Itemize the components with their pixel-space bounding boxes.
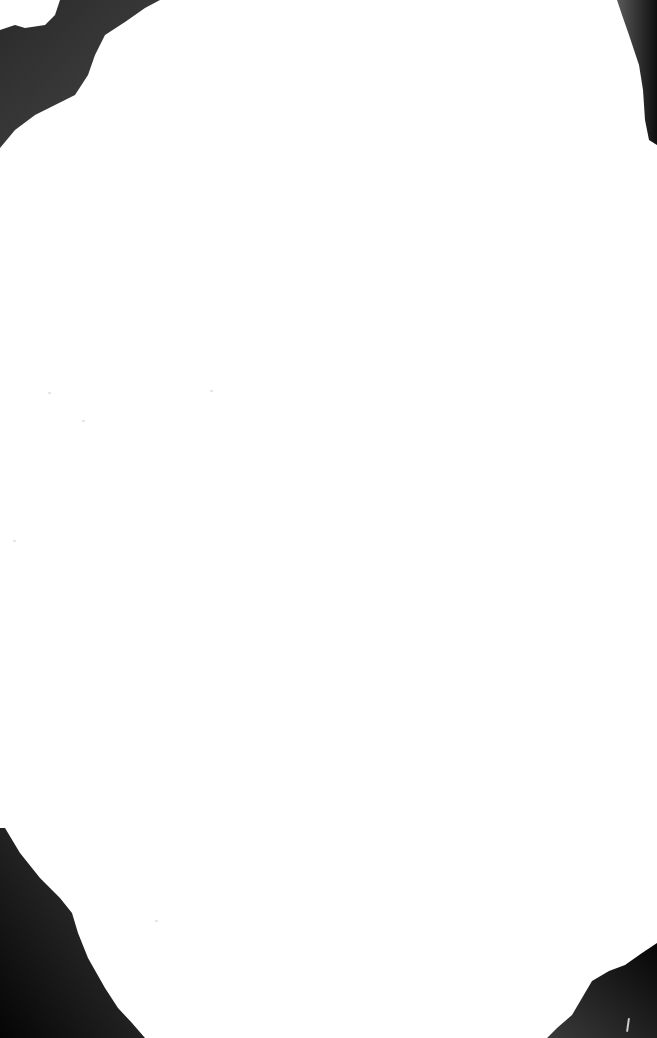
scan-speck [210, 390, 213, 392]
scan-speck [82, 420, 85, 422]
scan-speck [155, 920, 158, 922]
scanned-page [0, 0, 657, 1038]
scan-speck [48, 392, 51, 394]
scan-speck [13, 540, 16, 542]
bottom-right-vignette [547, 943, 657, 1038]
top-left-vignette [0, 0, 160, 150]
top-right-vignette [587, 0, 657, 150]
bottom-left-vignette [0, 828, 145, 1038]
